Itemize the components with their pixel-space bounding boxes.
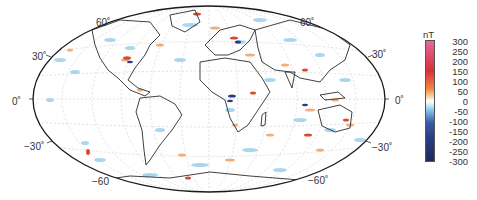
world-magnetic-anomaly-map bbox=[0, 0, 410, 200]
lat-label-right-60: 60˚ bbox=[300, 18, 314, 28]
lat-label-left-60: 60˚ bbox=[96, 18, 110, 28]
lat-label-left-minus30: −30˚ bbox=[24, 142, 44, 152]
lat-label-right-0: 0˚ bbox=[395, 96, 404, 106]
lat-label-left-0: 0˚ bbox=[12, 97, 21, 107]
lat-label-right-30: 30˚ bbox=[372, 50, 386, 60]
lat-label-right-minus60: −60˚ bbox=[308, 176, 328, 186]
lat-label-left-30: 30˚ bbox=[32, 52, 46, 62]
lat-label-left-minus60: −60 bbox=[92, 177, 109, 187]
colorbar bbox=[425, 40, 435, 162]
lat-label-right-minus30: −30˚ bbox=[372, 143, 392, 153]
colorbar-unit: nT bbox=[423, 29, 434, 40]
colorbar-tick: -300 bbox=[438, 157, 468, 167]
map-body bbox=[0, 0, 410, 200]
